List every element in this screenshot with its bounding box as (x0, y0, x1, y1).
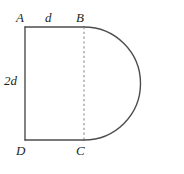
vertex-label-c: C (76, 144, 85, 157)
vertex-label-a: A (16, 11, 24, 24)
length-label-2d: 2d (4, 74, 17, 87)
length-label-d: d (45, 11, 52, 24)
vertex-label-d: D (16, 144, 25, 157)
figure-canvas (0, 0, 184, 174)
geometry-figure: A d B 2d D C (0, 0, 184, 174)
vertex-label-b: B (76, 11, 84, 24)
semicircle-arc-BC (84, 27, 141, 140)
